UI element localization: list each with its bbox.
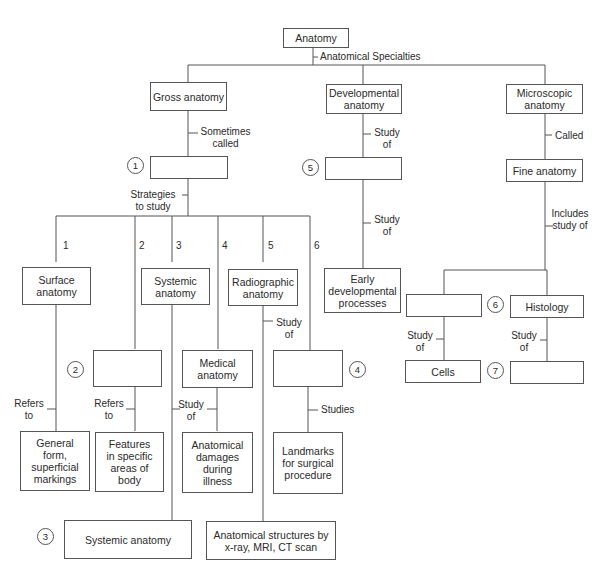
gross-anatomy-node: Gross anatomy [150, 82, 227, 111]
radiographic-anatomy-node: Radiographic anatomy [228, 269, 298, 306]
early-developmental-processes-node: Early developmental processes [324, 268, 401, 313]
blank-6-left-node[interactable] [406, 294, 482, 317]
anatomical-structures-node: Anatomical structures by x-ray, MRI, CT … [206, 521, 336, 560]
branch-num-2: 2 [139, 240, 145, 251]
blank-4-node[interactable] [273, 350, 343, 387]
blank-1-node[interactable] [150, 156, 228, 179]
blank-2-node[interactable] [93, 350, 162, 387]
medical-anatomy-node: Medical anatomy [182, 350, 253, 388]
branch-num-3: 3 [176, 240, 182, 251]
sometimes-called-label: Sometimes called [198, 126, 253, 150]
circle-2: 2 [67, 361, 84, 378]
study-of-label-cells: Study of [405, 330, 435, 354]
studies-label: Studies [321, 404, 354, 416]
blank-3-node[interactable]: Systemic anatomy [64, 520, 192, 559]
anatomical-specialties-label: Anatomical Specialties [320, 51, 421, 63]
refers-to-label-1: Refers to [12, 398, 46, 422]
developmental-anatomy-node: Developmental anatomy [326, 84, 402, 114]
branch-num-5: 5 [268, 240, 274, 251]
systemic-anatomy-node: Systemic anatomy [141, 268, 210, 305]
study-of-label-dev-1: Study of [372, 127, 402, 151]
circle-7: 7 [487, 362, 504, 379]
called-label: Called [555, 130, 583, 142]
circle-5: 5 [302, 159, 319, 176]
branch-num-4: 4 [222, 240, 228, 251]
study-of-label-radiographic: Study of [274, 317, 304, 341]
general-form-node: General form, superficial markings [20, 431, 90, 491]
blank-5-node[interactable] [325, 157, 402, 180]
refers-to-label-2: Refers to [92, 398, 126, 422]
strategies-label: Strategies to study [125, 189, 181, 213]
anatomical-damages-node: Anatomical damages during illness [182, 432, 253, 493]
circle-6: 6 [487, 296, 504, 313]
anatomy-node: Anatomy [283, 28, 349, 48]
histology-node: Histology [510, 295, 584, 318]
circle-3: 3 [37, 528, 54, 545]
includes-study-of-label: Includes study of [548, 208, 592, 232]
circle-4: 4 [349, 361, 366, 378]
blank-7-node[interactable] [510, 361, 584, 384]
microscopic-anatomy-node: Microscopic anatomy [506, 84, 583, 114]
study-of-label-dev-2: Study of [372, 214, 402, 238]
study-of-label-histology: Study of [509, 330, 539, 354]
surface-anatomy-node: Surface anatomy [22, 267, 91, 305]
fine-anatomy-node: Fine anatomy [506, 159, 583, 182]
study-of-label-medical: Study of [175, 399, 207, 423]
branch-num-1: 1 [63, 240, 69, 251]
features-node: Features in specific areas of body [95, 432, 164, 492]
landmarks-node: Landmarks for surgical procedure [273, 432, 343, 494]
branch-num-6: 6 [314, 240, 320, 251]
circle-1: 1 [127, 157, 144, 174]
cells-node: Cells [405, 360, 481, 383]
